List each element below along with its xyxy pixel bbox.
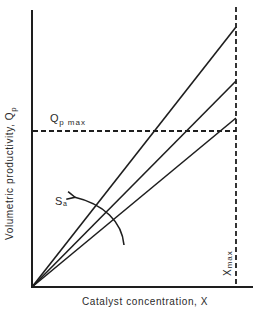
x-axis-label: Catalyst concentration, X	[0, 296, 264, 307]
sa-label: Sa	[55, 195, 67, 207]
y-axis-label-subscript: p	[9, 107, 18, 112]
qp-max-label-subscript: p max	[59, 118, 86, 127]
productivity-line-high	[32, 27, 236, 287]
y-axis-label-text: Volumetric productivity, Q	[4, 112, 15, 240]
xmax-label: Xmax	[222, 250, 234, 276]
xmax-label-main: X	[222, 268, 233, 276]
sa-label-subscript: a	[63, 200, 68, 207]
qp-max-label: Qp max	[50, 112, 86, 127]
sa-label-main: S	[55, 195, 63, 207]
y-axis-label: Volumetric productivity, Qp	[4, 107, 18, 240]
xmax-label-subscript: max	[225, 250, 234, 268]
qp-max-label-main: Q	[50, 112, 59, 124]
